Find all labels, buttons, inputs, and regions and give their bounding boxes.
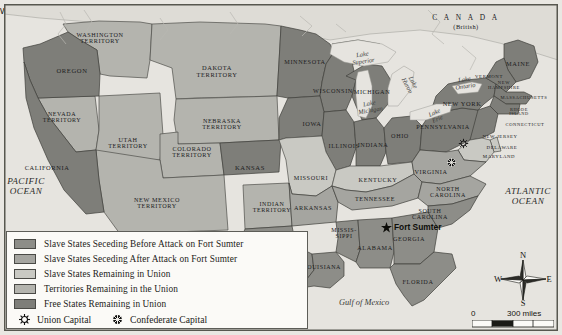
confederate-capital-legend-label: Confederate Capital bbox=[130, 314, 207, 325]
legend-swatch-4 bbox=[14, 299, 36, 309]
legend-confederate-capital: Confederate Capital bbox=[107, 313, 207, 326]
legend-union-capital: Union Capital bbox=[14, 313, 91, 326]
state-iowa bbox=[279, 96, 324, 140]
legend-item-0: Slave States Seceding Before Attack on F… bbox=[14, 237, 301, 251]
confederate-capital-icon bbox=[111, 313, 124, 326]
state-indian-territory bbox=[243, 183, 292, 229]
scale-bar-graphic bbox=[472, 320, 554, 328]
scale-zero-label: 0 bbox=[471, 309, 475, 318]
fort-sumter-label: Fort Sumter bbox=[394, 222, 441, 232]
state-kansas bbox=[220, 140, 281, 175]
scale-max-label: 300 miles bbox=[507, 309, 541, 318]
legend-swatch-0 bbox=[14, 239, 36, 249]
compass-rose: N E S W bbox=[496, 256, 550, 304]
compass-west-label: W bbox=[494, 274, 502, 284]
legend-label-4: Free States Remaining in Union bbox=[44, 299, 166, 309]
legend-item-2: Slave States Remaining in Union bbox=[14, 267, 301, 281]
state-nebraska-territory bbox=[174, 96, 279, 144]
lake-michigan bbox=[356, 70, 372, 118]
union-capital-icon bbox=[18, 313, 31, 326]
legend-swatch-1 bbox=[14, 254, 36, 264]
legend-label-1: Slave States Seceding After Attack on Fo… bbox=[44, 254, 237, 264]
confederate-capital-icon bbox=[446, 157, 457, 168]
map-legend: Slave States Seceding Before Attack on F… bbox=[6, 231, 308, 329]
secession-map: WASHINGTON TERRITORYOREGONNEVADA TERRITO… bbox=[0, 0, 562, 335]
legend-swatch-3 bbox=[14, 284, 36, 294]
state-indiana bbox=[354, 118, 386, 166]
compass-star-icon bbox=[496, 256, 550, 304]
legend-label-3: Territories Remaining in the Union bbox=[44, 284, 178, 294]
compass-east-label: E bbox=[546, 274, 551, 284]
legend-item-1: Slave States Seceding After Attack on Fo… bbox=[14, 252, 301, 266]
fort-sumter-star-icon bbox=[381, 222, 392, 233]
compass-north-label: N bbox=[520, 250, 526, 260]
compass-south-label: S bbox=[521, 298, 526, 308]
scale-bar: 0 300 miles bbox=[471, 309, 555, 329]
legend-item-4: Free States Remaining in Union bbox=[14, 297, 301, 311]
union-capital-legend-label: Union Capital bbox=[37, 314, 91, 325]
legend-item-3: Territories Remaining in the Union bbox=[14, 282, 301, 296]
legend-entries: Slave States Seceding Before Attack on F… bbox=[14, 237, 301, 311]
legend-label-0: Slave States Seceding Before Attack on F… bbox=[44, 239, 243, 249]
legend-swatch-2 bbox=[14, 269, 36, 279]
legend-capitals-row: Union Capital Confederate Capital bbox=[14, 312, 301, 327]
union-capital-icon bbox=[458, 138, 469, 149]
legend-label-2: Slave States Remaining in Union bbox=[44, 269, 171, 279]
